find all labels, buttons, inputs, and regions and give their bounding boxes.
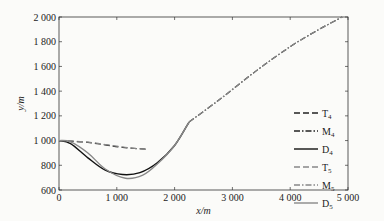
y-tick-label: 800 <box>41 160 56 171</box>
legend-label-d5: D5 <box>322 198 333 211</box>
chart-figure: 01 0002 0003 0004 0005 0006008001 0001 2… <box>0 0 384 221</box>
x-tick-label: 0 <box>57 192 62 203</box>
series-m5 <box>189 17 342 122</box>
plot-frame <box>59 17 348 190</box>
legend-label-t5: T5 <box>322 162 332 175</box>
x-tick-label: 5 000 <box>337 192 360 203</box>
x-tick-label: 2 000 <box>163 192 186 203</box>
x-tick-label: 1 000 <box>106 192 129 203</box>
series-d4 <box>59 122 189 175</box>
y-axis-label: y/m <box>15 96 26 111</box>
y-tick-label: 1 000 <box>34 135 57 146</box>
x-axis-label: x/m <box>195 205 210 216</box>
legend-label-m4: M4 <box>322 126 335 139</box>
y-tick-label: 1 800 <box>34 36 57 47</box>
series-m4 <box>189 17 342 122</box>
y-tick-label: 1 200 <box>34 110 57 121</box>
x-tick-label: 3 000 <box>221 192 244 203</box>
legend-label-m5: M5 <box>322 180 335 193</box>
legend-label-t4: T4 <box>322 108 332 121</box>
legend-label-d4: D4 <box>322 144 333 157</box>
y-tick-label: 600 <box>41 185 56 196</box>
y-tick-label: 1 400 <box>34 86 57 97</box>
x-tick-label: 4 000 <box>279 192 302 203</box>
y-tick-label: 2 000 <box>34 12 57 23</box>
y-tick-label: 1 600 <box>34 61 57 72</box>
line-chart: 01 0002 0003 0004 0005 0006008001 0001 2… <box>0 0 384 221</box>
